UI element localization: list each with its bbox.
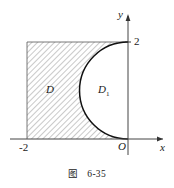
- x-axis-label: x: [160, 142, 165, 153]
- region-d1-letter: D: [98, 83, 106, 95]
- figure-caption: 图6-35: [0, 166, 174, 180]
- figure-container: y x O 2 -2 D D1 图6-35: [0, 0, 174, 188]
- region-label-d: D: [46, 84, 54, 95]
- y-axis-arrow-icon: [126, 14, 131, 21]
- caption-label: 图: [68, 169, 78, 179]
- y-tick-label-2: 2: [134, 36, 140, 47]
- figure-drawing: [0, 0, 174, 160]
- caption-number: 6-35: [87, 169, 106, 179]
- y-axis-label: y: [118, 9, 123, 20]
- origin-label: O: [118, 141, 126, 152]
- region-label-d1: D1: [98, 84, 109, 98]
- region-d1-subscript: 1: [106, 90, 110, 98]
- x-tick-label-neg2: -2: [19, 142, 28, 153]
